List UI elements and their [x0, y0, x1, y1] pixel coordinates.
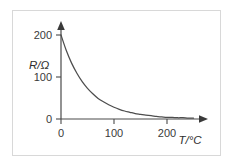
y-axis-title: R/Ω — [29, 59, 50, 71]
x-tick-label-100: 100 — [105, 127, 123, 139]
resistance-decay-curve — [61, 35, 194, 118]
y-axis-ticks — [56, 35, 61, 119]
y-axis-arrow-icon — [57, 21, 65, 30]
resistance-temperature-chart: 200 100 0 0 100 200 R/Ω T/°C — [13, 11, 220, 155]
x-tick-label-0: 0 — [58, 127, 64, 139]
chart-figure-frame: 200 100 0 0 100 200 R/Ω T/°C — [12, 10, 221, 156]
x-tick-label-200: 200 — [158, 127, 176, 139]
x-axis — [61, 115, 208, 123]
y-tick-label-100: 100 — [34, 71, 52, 83]
y-tick-label-200: 200 — [34, 29, 52, 41]
x-axis-title: T/°C — [178, 134, 202, 146]
x-axis-ticks — [61, 119, 167, 124]
x-axis-arrow-icon — [199, 115, 208, 123]
y-tick-label-0: 0 — [46, 113, 52, 125]
